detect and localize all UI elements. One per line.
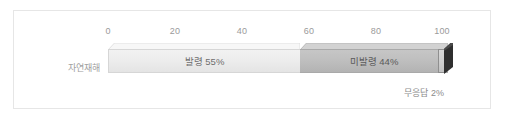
category-label-natural-disaster: 자연재해 bbox=[38, 62, 100, 74]
bar-segment-issued[interactable]: 발령 55% bbox=[108, 49, 300, 73]
axis-tick-0: 0 bbox=[105, 25, 110, 37]
x-axis: 0 20 40 60 80 100 bbox=[14, 25, 492, 39]
stacked-bar-natural-disaster: 발령 55% 미발령 44% bbox=[108, 43, 444, 85]
bar-segment-not-issued-label: 미발령 44% bbox=[300, 50, 448, 73]
axis-tick-60: 60 bbox=[304, 25, 314, 37]
chart-frame: 0 20 40 60 80 100 자연재해 발령 55% bbox=[13, 10, 491, 109]
bar-segment-not-issued[interactable]: 미발령 44% bbox=[300, 49, 448, 73]
axis-tick-100: 100 bbox=[434, 25, 450, 37]
callout-no-response: 무응답 2% bbox=[404, 87, 444, 99]
axis-tick-20: 20 bbox=[170, 25, 180, 37]
axis-tick-40: 40 bbox=[237, 25, 247, 37]
axis-tick-80: 80 bbox=[371, 25, 381, 37]
bar-segment-issued-label: 발령 55% bbox=[109, 50, 300, 73]
bar-end-cap-3d bbox=[444, 43, 453, 74]
plot-area: 0 20 40 60 80 100 자연재해 발령 55% bbox=[14, 11, 492, 110]
